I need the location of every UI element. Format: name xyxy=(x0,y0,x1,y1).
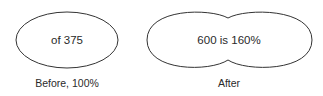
before-shape-text: of 375 xyxy=(51,34,83,46)
after-shape-text: 600 is 160% xyxy=(197,34,260,46)
after-caption: After xyxy=(218,77,240,89)
before-caption: Before, 100% xyxy=(35,77,99,89)
